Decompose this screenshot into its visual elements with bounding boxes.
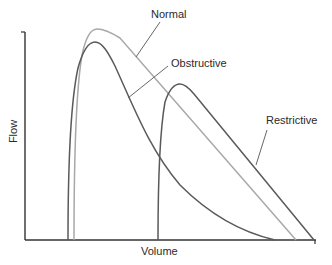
curve-obstructive: [68, 42, 275, 240]
flow-volume-diagram: Normal Obstructive Restrictive Flow Volu…: [0, 0, 332, 265]
x-axis-label: Volume: [141, 246, 178, 257]
leader-normal: [136, 22, 160, 57]
label-restrictive: Restrictive: [266, 115, 317, 126]
label-obstructive: Obstructive: [171, 58, 227, 69]
diagram-canvas: [0, 0, 332, 265]
y-axis-label: Flow: [8, 120, 19, 143]
label-normal: Normal: [151, 9, 186, 20]
leader-lines: [128, 22, 267, 165]
leader-restrictive: [256, 130, 267, 165]
